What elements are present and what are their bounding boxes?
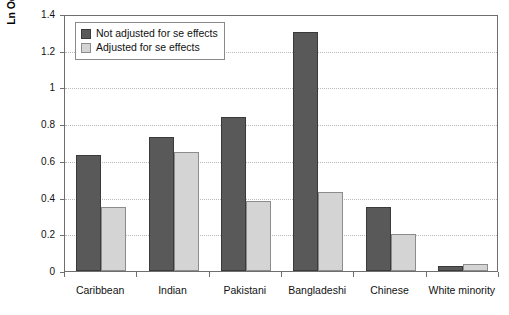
y-axis-tick-label: 1 — [0, 83, 62, 93]
x-axis-tick-mark — [281, 272, 282, 277]
gridline — [65, 235, 497, 236]
bar-white-minority-not-adjusted — [438, 266, 463, 271]
legend-swatch-not-adjusted — [81, 29, 91, 39]
bar-white-minority-adjusted — [463, 264, 488, 271]
bar-pakistani-not-adjusted — [221, 117, 246, 271]
x-axis-label-pakistani: Pakistani — [209, 284, 281, 296]
x-axis-label-caribbean: Caribbean — [64, 284, 136, 296]
gridline — [65, 88, 497, 89]
y-axis-tick-label: 1.2 — [0, 47, 62, 57]
bar-indian-adjusted — [174, 152, 199, 271]
chart-legend: Not adjusted for se effects Adjusted for… — [75, 22, 225, 60]
legend-label-not-adjusted: Not adjusted for se effects — [96, 28, 218, 39]
legend-item: Adjusted for se effects — [81, 41, 218, 54]
x-axis-tick-mark — [498, 272, 499, 277]
bar-bangladeshi-adjusted — [318, 192, 343, 271]
legend-label-adjusted: Adjusted for se effects — [96, 42, 200, 53]
y-axis-tick-label: 0.2 — [0, 230, 62, 240]
bar-chart-figure: Ln Odds ratio compared with White Englis… — [0, 0, 509, 315]
x-axis-label-white-minority: White minority — [426, 284, 498, 296]
x-axis-label-indian: Indian — [136, 284, 208, 296]
y-axis-tick-label: 0.4 — [0, 194, 62, 204]
x-axis-label-chinese: Chinese — [353, 284, 425, 296]
bar-pakistani-adjusted — [246, 201, 271, 271]
x-axis-tick-mark — [353, 272, 354, 277]
bar-bangladeshi-not-adjusted — [293, 32, 318, 271]
legend-item: Not adjusted for se effects — [81, 27, 218, 40]
x-axis-tick-mark — [426, 272, 427, 277]
x-axis-tick-mark — [209, 272, 210, 277]
bar-indian-not-adjusted — [149, 137, 174, 271]
bar-caribbean-adjusted — [101, 207, 126, 271]
gridline — [65, 162, 497, 163]
legend-swatch-adjusted — [81, 43, 91, 53]
bar-chinese-adjusted — [391, 234, 416, 271]
gridline — [65, 125, 497, 126]
x-axis-tick-mark — [136, 272, 137, 277]
y-axis-tick-label: 0.8 — [0, 120, 62, 130]
y-axis-title: Ln Odds ratio compared with White Englis… — [2, 0, 20, 47]
y-axis-tick-label: 0 — [0, 267, 62, 277]
bar-chinese-not-adjusted — [366, 207, 391, 271]
y-axis-tick-label: 1.4 — [0, 10, 62, 20]
y-axis-tick-label: 0.6 — [0, 157, 62, 167]
gridline — [65, 199, 497, 200]
x-axis-label-bangladeshi: Bangladeshi — [281, 284, 353, 296]
x-axis-tick-mark — [64, 272, 65, 277]
bar-caribbean-not-adjusted — [76, 155, 101, 271]
